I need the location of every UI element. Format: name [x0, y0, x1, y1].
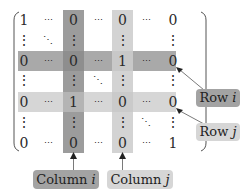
matrix-cell: 0: [64, 134, 84, 152]
matrix-cell: ⋯: [136, 11, 156, 29]
matrix-cell: 1: [113, 52, 133, 70]
matrix-cell: 1: [14, 11, 34, 29]
matrix-cell: ⋮: [163, 31, 183, 49]
matrix-cell: ⋮: [113, 71, 133, 89]
matrix-cell: ⋯: [38, 11, 58, 29]
row-i-arrow-line: [180, 70, 204, 90]
matrix-cell: ⋮: [64, 113, 84, 131]
matrix-cell: 0: [163, 11, 183, 29]
matrix-cell: ⋯: [88, 11, 108, 29]
matrix-cell: ⋯: [136, 52, 156, 70]
matrix-cell: ⋮: [14, 31, 34, 49]
matrix-cell: ⋮: [14, 113, 34, 131]
label-index-variable: i: [91, 172, 95, 187]
label-index-variable: i: [232, 90, 236, 105]
matrix-cell: 0: [64, 52, 84, 70]
matrix-cell: 0: [14, 93, 34, 111]
matrix-cell: 0: [14, 134, 34, 152]
matrix-cell: ⋯: [88, 134, 108, 152]
matrix-cell: ⋮: [64, 31, 84, 49]
row-j-label: Row j: [196, 123, 240, 141]
column-i-label: Column i: [33, 170, 99, 189]
matrix-cell: ⋮: [163, 113, 183, 131]
column-j-arrow-head-icon: [119, 152, 126, 159]
row-i-label: Row i: [196, 89, 240, 107]
matrix-cell: 0: [14, 52, 34, 70]
matrix-cell: 0: [113, 93, 133, 111]
column-i-arrow-head-icon: [70, 152, 77, 159]
label-index-variable: j: [232, 124, 236, 139]
matrix-cell: 0: [163, 93, 183, 111]
matrix-cell: 0: [64, 11, 84, 29]
matrix-cell: ⋱: [38, 31, 58, 49]
matrix-cell: ⋮: [113, 113, 133, 131]
matrix-cell: ⋯: [38, 93, 58, 111]
label-index-variable: j: [166, 172, 170, 187]
matrix-cell: 1: [64, 93, 84, 111]
matrix-cell: ⋮: [14, 71, 34, 89]
matrix-cell: 1: [163, 134, 183, 152]
matrix-cell: ⋯: [88, 52, 108, 70]
matrix-cell: ⋮: [113, 31, 133, 49]
matrix-cell: ⋮: [64, 71, 84, 89]
column-j-label: Column j: [107, 170, 173, 189]
matrix-cell: ⋯: [38, 134, 58, 152]
matrix-cell: ⋯: [136, 134, 156, 152]
matrix-cell: ⋱: [88, 71, 108, 89]
matrix-cell: 0: [113, 11, 133, 29]
matrix-cell: ⋮: [163, 71, 183, 89]
matrix-cell: 0: [163, 52, 183, 70]
matrix-cell: ⋯: [38, 52, 58, 70]
matrix-cell: 0: [113, 134, 133, 152]
matrix-cell: ⋱: [136, 113, 156, 131]
matrix-cell: ⋯: [136, 93, 156, 111]
matrix-cell: ⋯: [88, 93, 108, 111]
